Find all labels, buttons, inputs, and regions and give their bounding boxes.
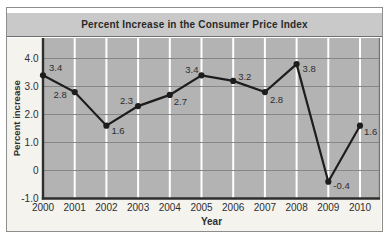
data-label: 1.6 — [111, 125, 124, 136]
y-tick-label: 0 — [33, 165, 39, 176]
x-tick-label: 2000 — [32, 202, 55, 213]
data-label: 3.8 — [303, 63, 316, 74]
x-tick-label: 2009 — [317, 202, 340, 213]
x-tick-label: 2006 — [222, 202, 245, 213]
chart-figure: Percent Increase in the Consumer Price I… — [6, 7, 383, 232]
data-point — [72, 89, 78, 95]
y-tick-label: 3.0 — [25, 81, 39, 92]
data-point — [357, 123, 363, 129]
x-tick-label: 2010 — [349, 202, 372, 213]
x-tick-label: 2002 — [95, 202, 118, 213]
data-point — [294, 61, 300, 67]
data-label: 2.8 — [53, 89, 66, 100]
chart-title: Percent Increase in the Consumer Price I… — [81, 19, 308, 30]
x-tick-label: 2007 — [254, 202, 277, 213]
x-axis-title: Year — [201, 216, 222, 227]
data-label: 3.4 — [49, 62, 62, 73]
data-label: 3.4 — [185, 64, 198, 75]
y-tick-label: 4.0 — [25, 53, 39, 64]
data-point — [262, 89, 268, 95]
x-tick-label: 2008 — [285, 202, 308, 213]
data-label: 2.3 — [120, 95, 133, 106]
chart-area: 3.42.81.62.32.73.43.22.83.8-0.41.64.03.0… — [7, 38, 381, 231]
data-point — [135, 103, 141, 109]
y-tick-label: 1.0 — [25, 137, 39, 148]
chart-title-bar: Percent Increase in the Consumer Price I… — [7, 13, 382, 37]
y-tick-label: 2.0 — [25, 109, 39, 120]
data-point — [230, 78, 236, 84]
data-point — [40, 72, 46, 78]
data-label: 2.7 — [174, 96, 187, 107]
data-point — [198, 72, 204, 78]
data-point — [325, 179, 331, 185]
data-label: 1.6 — [364, 126, 377, 137]
x-tick-label: 2001 — [64, 202, 87, 213]
x-tick-label: 2004 — [159, 202, 182, 213]
y-axis-title: Percent increase — [11, 80, 22, 156]
data-label: -0.4 — [333, 180, 349, 191]
x-tick-label: 2003 — [127, 202, 150, 213]
x-tick-label: 2005 — [190, 202, 213, 213]
data-point — [103, 123, 109, 129]
data-label: 2.8 — [270, 94, 283, 105]
data-label: 3.2 — [238, 71, 251, 82]
chart-canvas: 3.42.81.62.32.73.43.22.83.8-0.41.64.03.0… — [7, 38, 381, 231]
plot-background — [43, 38, 380, 199]
data-point — [167, 92, 173, 98]
